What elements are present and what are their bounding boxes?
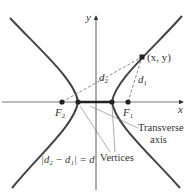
diagram-graphics — [0, 0, 191, 194]
vertices-label: Vertices — [100, 153, 134, 164]
vertex-right-point — [109, 99, 114, 104]
y-axis-label: y — [86, 12, 91, 23]
point-label: (x, y) — [147, 52, 171, 63]
curve-point-marker — [140, 55, 145, 60]
d1-label: d1 — [138, 74, 147, 87]
focus-f1-label: F1 — [123, 107, 133, 120]
focus-f1-point — [125, 99, 130, 104]
d2-label: d2 — [99, 72, 108, 85]
hyperbola-diagram: y x (x, y) d2 d1 F2 F1 Transverse axis V… — [0, 0, 191, 194]
equation-label: |d₂ − d₁| = d — [41, 155, 95, 166]
transverse-axis-label-line1: Transverse — [138, 123, 184, 134]
focus-f2-point — [59, 99, 64, 104]
vertex-left-point — [75, 99, 80, 104]
focus-f2-label: F2 — [55, 107, 65, 120]
transverse-axis-label-line2: axis — [150, 135, 167, 146]
x-axis-label: x — [178, 104, 183, 115]
